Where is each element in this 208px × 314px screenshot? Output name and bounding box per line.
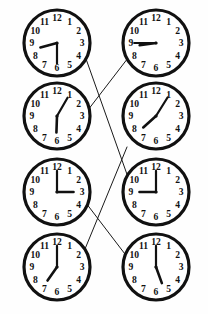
clock-numeral: 8	[132, 199, 137, 210]
clock-center-hub	[55, 41, 58, 44]
clock-numeral: 3	[179, 261, 184, 272]
clock-numeral: 12	[151, 85, 161, 96]
clock-numeral: 2	[76, 174, 81, 185]
clock-numeral: 6	[154, 286, 159, 297]
clock-center-hub	[55, 265, 58, 268]
clock-numeral: 6	[154, 211, 159, 222]
clock-numeral: 10	[129, 98, 139, 109]
clock-face[interactable]: 121234567891011	[117, 4, 195, 82]
clock-center-hub	[55, 114, 58, 117]
clock-numeral: 9	[129, 186, 134, 197]
clock-numeral: 4	[175, 199, 180, 210]
clock-numeral: 11	[40, 16, 49, 27]
clock-numeral: 3	[179, 37, 184, 48]
clock-numeral: 1	[67, 16, 72, 27]
clock-numeral: 8	[33, 50, 38, 61]
clock-numeral: 10	[129, 249, 139, 260]
clock-numeral: 5	[166, 132, 171, 143]
clock-numeral: 1	[166, 165, 171, 176]
clock-numeral: 9	[129, 261, 134, 272]
clock-numeral: 3	[80, 186, 85, 197]
clock-numeral: 1	[67, 165, 72, 176]
clock-numeral: 10	[30, 25, 40, 36]
clock-numeral: 4	[76, 50, 81, 61]
clock-numeral: 9	[30, 186, 35, 197]
clock-numeral: 7	[42, 59, 47, 70]
clock-face[interactable]: 121234567891011	[117, 228, 195, 306]
clock-numeral: 7	[42, 283, 47, 294]
clock-numeral: 8	[132, 123, 137, 134]
clock-numeral: 7	[42, 208, 47, 219]
clock-numeral: 2	[76, 98, 81, 109]
clock-numeral: 3	[80, 110, 85, 121]
clock-numeral: 4	[76, 274, 81, 285]
clock-face[interactable]: 121234567891011	[117, 77, 195, 155]
clock-numeral: 12	[52, 12, 62, 23]
clock-numeral: 11	[139, 240, 148, 251]
clock-numeral: 9	[129, 110, 134, 121]
clock-numeral: 4	[175, 123, 180, 134]
clock-numeral: 7	[141, 132, 146, 143]
clock-numeral: 8	[33, 199, 38, 210]
clock-center-hub	[154, 114, 157, 117]
clock-numeral: 2	[175, 249, 180, 260]
clock-numeral: 10	[30, 98, 40, 109]
clock-numeral: 11	[40, 240, 49, 251]
clock-numeral: 8	[132, 50, 137, 61]
clock-numeral: 5	[166, 283, 171, 294]
clock-numeral: 10	[129, 174, 139, 185]
clock-face[interactable]: 121234567891011	[18, 77, 96, 155]
clock-numeral: 2	[175, 174, 180, 185]
clock-numeral: 2	[76, 249, 81, 260]
clock-center-hub	[154, 41, 157, 44]
clock-numeral: 1	[67, 240, 72, 251]
clock-hour-hand	[56, 116, 57, 132]
clock-face[interactable]: 121234567891011	[18, 228, 96, 306]
clock-numeral: 11	[40, 89, 49, 100]
clock-numeral: 11	[40, 165, 49, 176]
clock-numeral: 3	[80, 37, 85, 48]
clock-numeral: 3	[179, 186, 184, 197]
clock-numeral: 9	[129, 37, 134, 48]
clock-numeral: 4	[175, 274, 180, 285]
clock-numeral: 7	[141, 208, 146, 219]
puzzle-canvas: 1212345678910111212345678910111212345678…	[0, 0, 208, 314]
clock-numeral: 6	[55, 135, 60, 146]
clock-numeral: 6	[154, 135, 159, 146]
clock-numeral: 4	[76, 123, 81, 134]
clock-numeral: 5	[67, 208, 72, 219]
clock-numeral: 7	[141, 283, 146, 294]
clock-numeral: 6	[55, 286, 60, 297]
clock-numeral: 10	[129, 25, 139, 36]
clock-numeral: 8	[132, 274, 137, 285]
clock-numeral: 4	[175, 50, 180, 61]
clock-face[interactable]: 121234567891011	[18, 153, 96, 231]
clock-numeral: 8	[33, 274, 38, 285]
clock-numeral: 3	[80, 261, 85, 272]
clock-numeral: 12	[151, 12, 161, 23]
clock-numeral: 11	[139, 165, 148, 176]
clock-numeral: 5	[166, 208, 171, 219]
clock-numeral: 1	[166, 16, 171, 27]
clock-numeral: 5	[67, 132, 72, 143]
clock-numeral: 9	[30, 37, 35, 48]
clock-face[interactable]: 121234567891011	[18, 4, 96, 82]
clock-numeral: 7	[141, 59, 146, 70]
clock-numeral: 2	[175, 25, 180, 36]
clock-face[interactable]: 121234567891011	[117, 153, 195, 231]
clock-numeral: 8	[33, 123, 38, 134]
clock-numeral: 5	[166, 59, 171, 70]
clock-center-hub	[154, 265, 157, 268]
clock-numeral: 11	[139, 89, 148, 100]
clock-numeral: 1	[166, 240, 171, 251]
clock-numeral: 9	[30, 261, 35, 272]
clock-numeral: 10	[30, 249, 40, 260]
clock-center-hub	[154, 190, 157, 193]
clock-numeral: 6	[154, 62, 159, 73]
clock-numeral: 12	[52, 85, 62, 96]
clock-numeral: 7	[42, 132, 47, 143]
clock-numeral: 4	[76, 199, 81, 210]
clock-numeral: 2	[76, 25, 81, 36]
clock-numeral: 2	[175, 98, 180, 109]
clock-numeral: 9	[30, 110, 35, 121]
